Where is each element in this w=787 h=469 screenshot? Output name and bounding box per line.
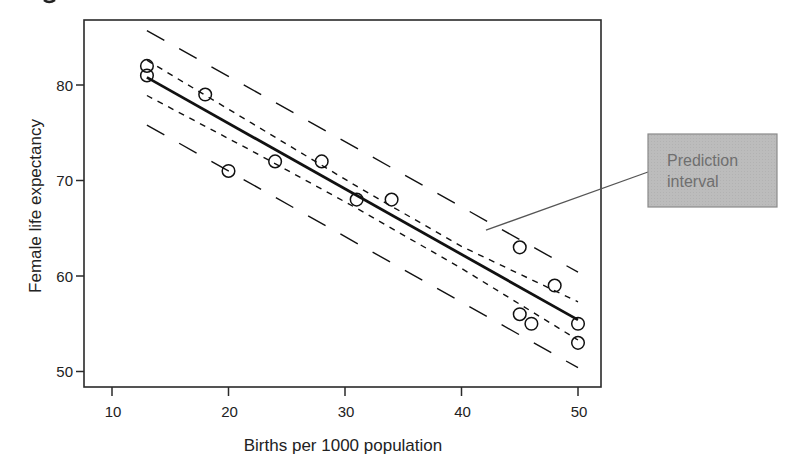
data-point-marker [513, 241, 526, 254]
x-tick-label: 50 [571, 403, 588, 420]
data-point-marker [572, 337, 585, 350]
y-tick-label: 80 [56, 77, 73, 94]
x-tick-label: 30 [338, 403, 355, 420]
data-points [141, 60, 585, 350]
scatter-chart: 50607080 1020304050 Births per 1000 popu… [0, 0, 787, 469]
prediction-interval-annotation: Predictioninterval [486, 134, 777, 230]
data-point-marker [513, 308, 526, 321]
annotation-label: interval [667, 173, 719, 190]
data-point-marker [385, 193, 398, 206]
prediction-interval-line [147, 31, 578, 273]
cropped-caption-fragment [44, 0, 55, 2]
y-tick-label: 70 [56, 172, 73, 189]
annotation-label: Prediction [667, 152, 738, 169]
y-tick-label: 60 [56, 268, 73, 285]
y-axis-title: Female life expectancy [26, 119, 45, 293]
annotation-box [648, 134, 777, 207]
confidence-interval-line [147, 96, 578, 341]
y-tick-label: 50 [56, 363, 73, 380]
plot-border [84, 20, 601, 387]
x-tick-label: 10 [105, 403, 122, 420]
data-point-marker [141, 69, 154, 82]
data-point-marker [269, 155, 282, 168]
plot-frame [84, 20, 601, 387]
x-axis: 1020304050 [105, 387, 588, 420]
data-point-marker [525, 317, 538, 330]
y-axis: 50607080 [56, 77, 84, 381]
annotation-leader-line [486, 172, 648, 230]
x-tick-label: 20 [221, 403, 238, 420]
x-tick-label: 40 [454, 403, 471, 420]
x-axis-title: Births per 1000 population [244, 436, 442, 455]
data-point-marker [199, 88, 212, 101]
